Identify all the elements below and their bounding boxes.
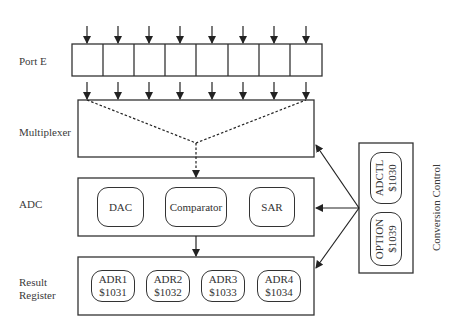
adr2-register: ADR2 $1032 (146, 270, 190, 302)
option-address: $1039 (386, 212, 399, 266)
adr2-name: ADR2 (154, 273, 183, 286)
sar-label: SAR (261, 201, 282, 214)
adr3-name: ADR3 (209, 273, 238, 286)
dac-label: DAC (109, 201, 132, 214)
adctl-name: ADCTL (373, 152, 386, 204)
adr1-name: ADR1 (99, 273, 128, 286)
adr3-address: $1033 (209, 286, 237, 299)
multiplexer-label: Multiplexer (19, 126, 71, 139)
adr3-register: ADR3 $1033 (201, 270, 245, 302)
port-e-register (72, 44, 322, 76)
adr1-register: ADR1 $1031 (91, 270, 135, 302)
adr1-address: $1031 (99, 286, 127, 299)
adc-label: ADC (19, 198, 42, 211)
option-name: OPTION (373, 212, 386, 266)
adctl-text: ADCTL $1030 (373, 152, 399, 204)
result-register-label-line2: Register (19, 289, 56, 302)
option-register: OPTION $1039 (370, 212, 402, 266)
result-register-label-line1: Result (19, 276, 47, 289)
adr4-address: $1034 (265, 286, 293, 299)
comparator-label: Comparator (170, 201, 223, 214)
adctl-register: ADCTL $1030 (370, 152, 402, 204)
adctl-address: $1030 (386, 152, 399, 204)
option-text: OPTION $1039 (373, 212, 399, 266)
conversion-control-label: Conversion Control (430, 148, 443, 268)
adr4-register: ADR4 $1034 (257, 270, 301, 302)
adr4-name: ADR4 (265, 273, 294, 286)
port-e-label: Port E (19, 55, 47, 68)
comparator-block: Comparator (165, 187, 227, 227)
adr2-address: $1032 (154, 286, 182, 299)
dac-block: DAC (97, 187, 144, 227)
sar-block: SAR (249, 187, 295, 227)
